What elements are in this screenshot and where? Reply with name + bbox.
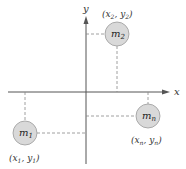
mass-mn: mn (xn, yn)	[131, 104, 162, 146]
y-axis-arrow-icon	[84, 16, 89, 24]
diagram-canvas: x y m2 (x2, y2) m1 (x1, y1) mn (xn, yn)	[0, 0, 186, 169]
coordinate-diagram: x y m2 (x2, y2) m1 (x1, y1) mn (xn, yn)	[0, 0, 186, 169]
mass-m2: m2 (x2, y2)	[102, 9, 133, 46]
x-axis-label: x	[174, 86, 180, 97]
m2-coordinates: (x2, y2)	[102, 9, 133, 20]
x-axis-arrow-icon	[162, 90, 170, 95]
mn-coordinates: (xn, yn)	[131, 135, 162, 146]
y-axis-label: y	[82, 3, 89, 14]
m1-coordinates: (x1, y1)	[9, 153, 40, 164]
mass-m1: m1 (x1, y1)	[9, 121, 40, 164]
